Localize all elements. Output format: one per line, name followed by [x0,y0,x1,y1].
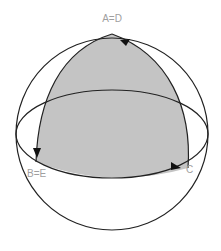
label-left-vertex: B=E [27,168,47,179]
sphere-diagram: A=D B=E C [0,0,221,251]
label-right-vertex: C [186,164,193,175]
label-top-vertex: A=D [102,13,122,24]
shaded-spherical-triangle [36,34,188,178]
